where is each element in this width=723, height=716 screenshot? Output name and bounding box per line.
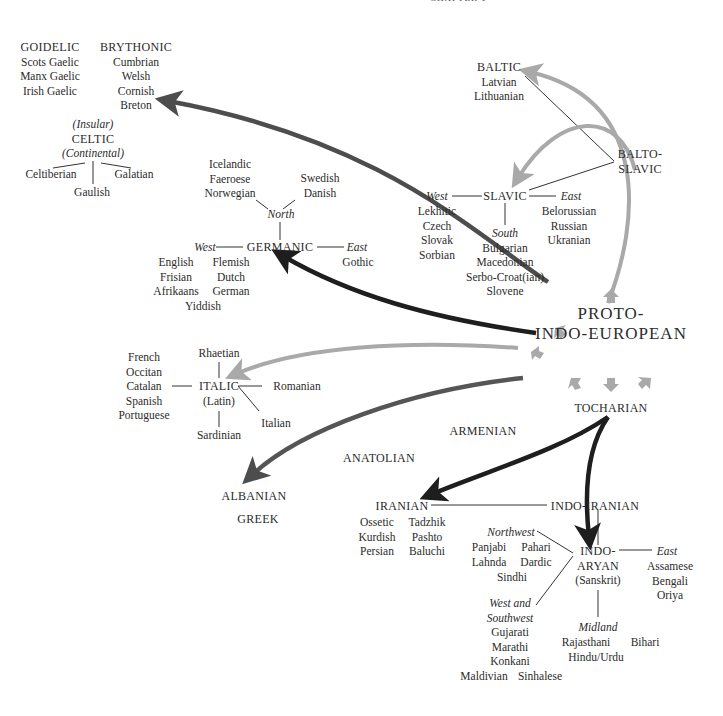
indo-aryan-title-line2: ARYAN (575, 559, 620, 574)
language: Belorussian (542, 204, 596, 219)
northwest-languages-left: Panjabi Lahnda (472, 540, 507, 569)
baltic-title: BALTIC (474, 60, 524, 75)
language: Pahari (520, 540, 551, 555)
slavic-title: SLAVIC (483, 189, 527, 204)
continental-label: (Continental) (62, 146, 124, 161)
language: Manx Gaelic (20, 69, 80, 84)
language-maldivian: Maldivian (460, 669, 507, 684)
indo-aryan-node: INDO- ARYAN (Sanskrit) (575, 544, 620, 588)
language: Russian (542, 219, 596, 234)
language: French (118, 350, 169, 365)
east-indo-aryan-label: East (657, 544, 677, 559)
language-gothic: Gothic (342, 255, 373, 270)
albanian-label: ALBANIAN (221, 489, 286, 504)
east-indo-aryan-languages: Assamese Bengali Oriya (647, 559, 693, 603)
northwest-languages-right: Pahari Dardic (520, 540, 551, 569)
language: Serbo-Croat(ian) (466, 270, 544, 285)
language-celtiberian: Celtiberian (25, 167, 76, 182)
arrow-to-indo-aryan (587, 417, 608, 537)
balto-slavic-title-line1: BALTO- (618, 147, 662, 162)
language: Oriya (647, 588, 693, 603)
west-slavic-languages: Lekhitic Czech Slovak Sorbian (418, 204, 456, 262)
west-and-label: West and (487, 596, 534, 611)
celtic-node: (Insular) CELTIC (Continental) (62, 117, 124, 161)
language: Dutch (212, 270, 249, 285)
language: Sorbian (418, 248, 456, 263)
language: Portuguese (118, 408, 169, 423)
language: Scots Gaelic (20, 55, 80, 70)
language: Occitan (118, 365, 169, 380)
arrowhead-down (603, 378, 619, 392)
language: Welsh (100, 69, 172, 84)
language: Spanish (118, 394, 169, 409)
language: Icelandic (204, 157, 255, 172)
armenian-label: ARMENIAN (449, 424, 516, 439)
brythonic-group: BRYTHONIC Cumbrian Welsh Cornish Breton (100, 40, 172, 113)
arrowhead-left (531, 346, 544, 360)
root-title-line2: INDO-EUROPEAN (535, 324, 687, 344)
anatolian-label: ANATOLIAN (343, 451, 415, 466)
language: Ossetic (358, 515, 395, 530)
goidelic-title: GOIDELIC (20, 40, 80, 55)
language: Tadzhik (409, 515, 446, 530)
language: Cumbrian (100, 55, 172, 70)
language: Norwegian (204, 186, 255, 201)
east-label: East (347, 240, 367, 255)
south-label: South (466, 226, 544, 241)
language-italian: Italian (261, 416, 290, 431)
western-romance-languages: French Occitan Catalan Spanish Portugues… (118, 350, 169, 423)
language-gaulish: Gaulish (74, 185, 110, 200)
indo-aryan-title-line1: INDO- (575, 544, 620, 559)
language-bihari: Bihari (631, 635, 660, 650)
language-rhaetian: Rhaetian (199, 346, 240, 361)
language-sardinian: Sardinian (197, 428, 241, 443)
arrowhead-downright (638, 377, 651, 389)
slavic-east-label: East (561, 189, 581, 204)
slavic-west-label: West (426, 189, 447, 204)
arrowhead-up (603, 289, 619, 303)
language-sindhi: Sindhi (497, 570, 527, 585)
language: Macedonian (466, 255, 544, 270)
northwest-label: Northwest (487, 525, 534, 540)
language: Frisian (153, 270, 198, 285)
language-yiddish: Yiddish (185, 299, 221, 314)
language: Marathi (487, 640, 534, 655)
indo-iranian-title: INDO-IRANIAN (551, 499, 639, 514)
language: Ukranian (542, 233, 596, 248)
language: Bengali (647, 574, 693, 589)
language: Lahnda (472, 555, 507, 570)
language: Dardic (520, 555, 551, 570)
southwest-label: Southwest (487, 611, 534, 626)
goidelic-group: GOIDELIC Scots Gaelic Manx Gaelic Irish … (20, 40, 80, 98)
language: Persian (358, 544, 395, 559)
brythonic-title: BRYTHONIC (100, 40, 172, 55)
sanskrit-subtitle: (Sanskrit) (575, 573, 620, 588)
language-hindu-urdu: Hindu/Urdu (568, 650, 624, 665)
greek-label: GREEK (237, 512, 279, 527)
arrow-to-italic (236, 345, 518, 374)
language: Afrikaans (153, 284, 198, 299)
north-germanic-left: Icelandic Faeroese Norwegian (204, 157, 255, 201)
language-galatian: Galatian (115, 167, 154, 182)
language: Slovak (418, 233, 456, 248)
iranian-languages-right: Tadzhik Pashto Baluchi (409, 515, 446, 559)
midland-label: Midland (579, 620, 618, 635)
language: German (212, 284, 249, 299)
language: Irish Gaelic (20, 84, 80, 99)
iranian-languages-left: Ossetic Kurdish Persian (358, 515, 395, 559)
language: Baluchi (409, 544, 446, 559)
proto-indo-european-root: PROTO- INDO-EUROPEAN (535, 304, 687, 344)
west-germanic-left: English Frisian Afrikaans (153, 255, 198, 299)
north-germanic-right: Swedish Danish (301, 171, 340, 200)
language-sinhalese: Sinhalese (518, 669, 562, 684)
italic-subtitle: (Latin) (199, 394, 239, 409)
language: Lekhitic (418, 204, 456, 219)
language: Catalan (118, 379, 169, 394)
south-slavic-group: South Bulgarian Macedonian Serbo-Croat(i… (466, 226, 544, 299)
language: Panjabi (472, 540, 507, 555)
indo-european-family-diagram: CHAPTER 1 (0, 0, 723, 716)
language: Assamese (647, 559, 693, 574)
language: Pashto (409, 530, 446, 545)
arrow-to-baltic (530, 72, 629, 303)
west-southwest-group: West and Southwest Gujarati Marathi Konk… (487, 596, 534, 669)
